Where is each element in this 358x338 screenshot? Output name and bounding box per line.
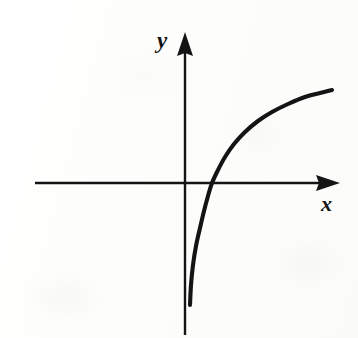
logarithmic-curve xyxy=(190,90,332,305)
x-axis-label: x xyxy=(321,193,332,215)
figure-canvas: y x xyxy=(0,0,358,338)
y-axis-label: y xyxy=(157,29,167,52)
graph-plot xyxy=(0,0,358,338)
x-axis-arrowhead xyxy=(316,175,340,191)
y-axis-arrowhead xyxy=(177,32,193,56)
